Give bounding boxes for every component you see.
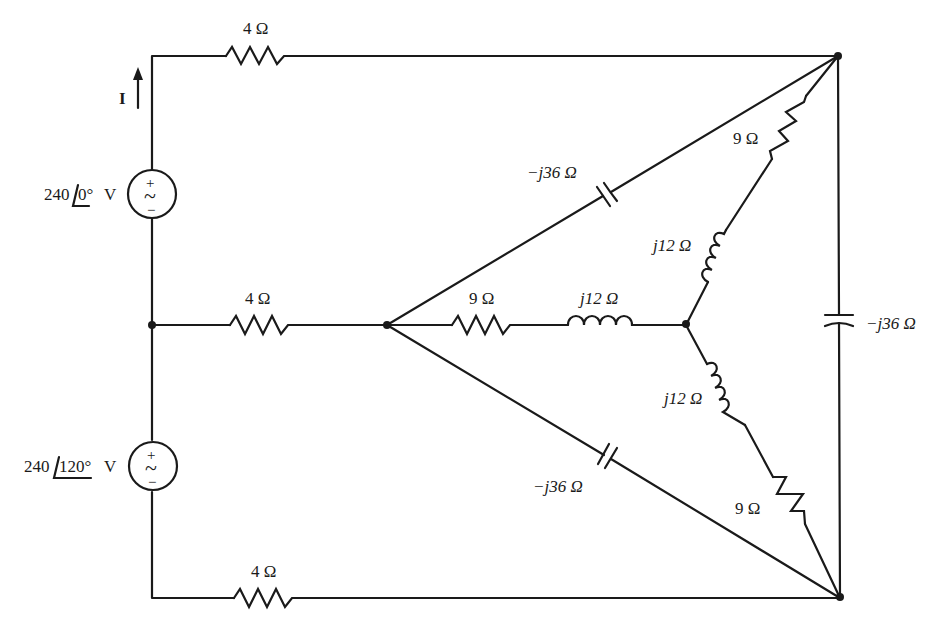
inductor-wye-upper-label: j12 Ω: [651, 236, 691, 255]
source-top-magnitude: 240: [44, 185, 70, 204]
resistor-wye-upper-label: 9 Ω: [733, 129, 758, 148]
current-label: I: [119, 89, 126, 108]
resistor-wye-middle: [452, 316, 515, 334]
node-bottom-right: [836, 593, 844, 601]
wire-right-lower: [839, 323, 840, 598]
node-wye-center: [682, 320, 690, 328]
source-bottom-label: 240 120° V: [24, 457, 117, 478]
resistor-line-middle: [230, 316, 294, 334]
wire-upper-diag-b: [611, 56, 838, 192]
wire-left-top: [152, 56, 226, 170]
circuit-diagram: I + ~ − 240 0° V + ~ − 240 120° V 4 Ω 4 …: [0, 0, 952, 637]
wire-left-bottom: [152, 492, 234, 598]
wire-wye-upper-a: [686, 282, 708, 325]
resistor-wye-lower-label: 9 Ω: [735, 499, 760, 518]
source-top-minus: −: [147, 202, 155, 218]
resistor-wye-upper: [770, 96, 806, 159]
node-center-left: [383, 321, 391, 329]
source-top-unit: V: [104, 185, 117, 204]
capacitor-upper-diagonal-label: −j36 Ω: [527, 163, 577, 182]
source-top-angle: 0°: [78, 185, 93, 204]
resistor-line-top: [226, 47, 290, 64]
source-bottom-minus: −: [148, 474, 156, 490]
wire-upper-diag-a: [387, 196, 603, 325]
wire-wye-upper-c: [806, 56, 838, 96]
capacitor-upper-diagonal: [597, 183, 617, 206]
source-bottom-angle: 120°: [59, 457, 91, 476]
resistor-line-middle-label: 4 Ω: [245, 289, 270, 308]
resistor-line-bottom: [234, 589, 298, 607]
ac-source-bottom: + ~ −: [129, 442, 177, 490]
inductor-wye-lower: [707, 363, 745, 425]
inductor-wye-lower-label: j12 Ω: [662, 389, 702, 408]
wire-lower-diag-a: [387, 325, 604, 455]
capacitor-lower-diagonal: [598, 444, 617, 468]
ac-source-top: + ~ −: [128, 170, 176, 218]
source-top-label: 240 0° V: [44, 185, 117, 206]
capacitor-right-vertical-label: −j36 Ω: [866, 314, 916, 333]
resistor-line-bottom-label: 4 Ω: [251, 562, 276, 581]
capacitor-lower-diagonal-label: −j36 Ω: [533, 477, 583, 496]
wire-wye-lower-b: [745, 425, 773, 477]
wire-wye-upper-b: [726, 159, 772, 230]
current-arrow-icon: [133, 67, 143, 108]
resistor-wye-middle-label: 9 Ω: [469, 289, 494, 308]
source-bottom-unit: V: [104, 457, 117, 476]
inductor-wye-middle: [568, 316, 636, 325]
node-top-right: [834, 52, 842, 60]
resistor-wye-lower: [773, 477, 805, 524]
source-bottom-magnitude: 240: [24, 457, 50, 476]
resistor-line-top-label: 4 Ω: [243, 19, 268, 38]
inductor-wye-middle-label: j12 Ω: [578, 289, 618, 308]
wire-lower-diag-b: [611, 459, 840, 598]
inductor-wye-upper: [702, 230, 726, 282]
wire-wye-lower-a: [686, 325, 707, 364]
node-left-neutral: [148, 321, 156, 329]
wire-right-upper: [838, 56, 839, 315]
